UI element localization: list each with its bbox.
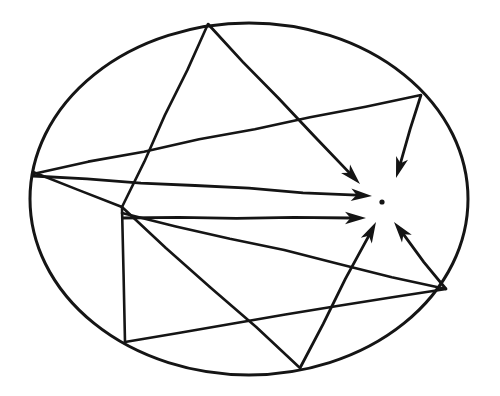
arrow-bottom-to-focus-head — [361, 222, 376, 243]
chord-top-hub — [122, 24, 208, 207]
figure-canvas: Converging vectors inside an ellipse A h… — [0, 0, 500, 396]
arrow-lowerright-to-focus-head — [394, 222, 412, 242]
arrow-left-to-focus — [33, 176, 372, 201]
arrow-top-to-focus — [208, 24, 360, 184]
chord-bottomleft-lowerright — [125, 289, 446, 342]
arrow-hub-to-focus-shaft — [122, 217, 351, 218]
chord-hub-bottomleft — [122, 207, 125, 342]
arrow-bottom-to-focus — [300, 222, 376, 368]
arrow-upperright-to-focus-shaft — [400, 95, 421, 164]
focus-dot — [379, 199, 384, 204]
arrow-top-to-focus-shaft — [208, 24, 350, 173]
chord-left-upperright — [33, 95, 421, 174]
arrow-upperright-to-focus — [396, 95, 421, 178]
figure-drawing: Converging vectors inside an ellipse A h… — [0, 0, 500, 396]
dot-layer — [379, 199, 384, 204]
chord-hub-bottom — [122, 207, 300, 368]
